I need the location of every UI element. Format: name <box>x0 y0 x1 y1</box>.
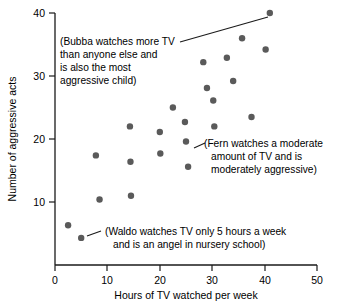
x-tick-label-30: 30 <box>206 274 218 286</box>
data-point <box>239 35 245 41</box>
data-point <box>210 97 216 103</box>
annotation-waldo: (Waldo watches TV only 5 hours a week an… <box>105 226 287 250</box>
data-point <box>204 85 210 91</box>
fern-line-2: moderately aggressive) <box>211 164 317 175</box>
data-point <box>200 59 206 65</box>
bubba-line-1: than anyone else and <box>60 49 158 60</box>
chart-svg: 40 30 20 10 0 10 20 30 40 50 Hours of TV… <box>0 0 340 302</box>
scatter-chart: 40 30 20 10 0 10 20 30 40 50 Hours of TV… <box>0 0 340 302</box>
x-tick-label-20: 20 <box>154 274 166 286</box>
fern-line-1: amount of TV and is <box>211 151 302 162</box>
y-tick-label-20: 20 <box>33 133 45 145</box>
data-point <box>170 104 176 110</box>
data-point <box>93 152 99 158</box>
data-point <box>230 78 236 84</box>
x-axis-title: Hours of TV watched per week <box>114 289 258 301</box>
data-point <box>224 55 230 61</box>
data-point <box>248 114 254 120</box>
data-point <box>157 150 163 156</box>
x-tick-label-50: 50 <box>311 274 323 286</box>
data-point <box>262 46 268 52</box>
data-point <box>127 123 133 129</box>
data-point <box>157 129 163 135</box>
data-point <box>185 164 191 170</box>
waldo-leader-line <box>87 231 101 236</box>
fern-line-0: (Fern watches a moderate <box>204 138 323 149</box>
y-tick-label-10: 10 <box>33 196 45 208</box>
data-point <box>78 235 84 241</box>
data-point <box>183 138 189 144</box>
y-tick-label-30: 30 <box>33 70 45 82</box>
data-point <box>127 158 133 164</box>
bubba-line-2: is also the most <box>60 62 131 73</box>
waldo-line-1: and is an angel in nursery school) <box>113 239 265 250</box>
annotation-bubba: (Bubba watches more TV than anyone else … <box>60 36 175 86</box>
x-tick-label-10: 10 <box>101 274 113 286</box>
bubba-leader-line <box>180 17 268 42</box>
data-point <box>182 119 188 125</box>
data-point <box>128 193 134 199</box>
x-tick-label-40: 40 <box>259 274 271 286</box>
bubba-line-0: (Bubba watches more TV <box>60 36 175 47</box>
annotation-fern: (Fern watches a moderate amount of TV an… <box>204 138 323 175</box>
y-tick-label-40: 40 <box>33 7 45 19</box>
bubba-line-3: aggressive child) <box>60 75 136 86</box>
data-point <box>211 123 217 129</box>
waldo-line-0: (Waldo watches TV only 5 hours a week <box>105 226 287 237</box>
data-point <box>65 222 71 228</box>
y-axis-title: Number of aggressive acts <box>6 77 18 202</box>
data-point <box>267 10 273 16</box>
data-point <box>96 196 102 202</box>
x-tick-label-0: 0 <box>52 274 58 286</box>
